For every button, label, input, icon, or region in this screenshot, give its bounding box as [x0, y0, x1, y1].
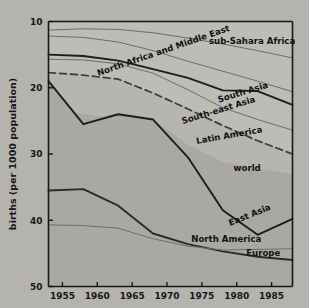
x-tick-label-1965: 1965	[120, 291, 145, 301]
x-tick-label-1975: 1975	[189, 291, 214, 301]
series-label-north-america: North America	[191, 234, 261, 244]
x-tick-label-1970: 1970	[154, 291, 179, 301]
y-tick-label-30: 30	[30, 149, 43, 159]
x-tick-label-1985: 1985	[259, 291, 284, 301]
chart-figure: 50403020101955196019651970197519801985bi…	[0, 0, 309, 308]
y-tick-label-20: 40	[30, 216, 43, 226]
series-label-sub-sahara-africa: sub-Sahara Africa	[209, 36, 296, 46]
y-axis-title: births (per 1000 population)	[7, 78, 18, 230]
y-tick-label-10: 50	[30, 282, 43, 292]
y-tick-label-40: 20	[30, 83, 43, 93]
x-tick-label-1955: 1955	[50, 291, 75, 301]
x-tick-label-1960: 1960	[85, 291, 110, 301]
x-tick-label-1980: 1980	[224, 291, 249, 301]
series-label-world: world	[234, 163, 261, 173]
y-tick-label-50: 10	[30, 17, 43, 27]
birth-rate-line-chart: 50403020101955196019651970197519801985bi…	[0, 0, 309, 308]
series-label-europe: Europe	[246, 248, 280, 258]
